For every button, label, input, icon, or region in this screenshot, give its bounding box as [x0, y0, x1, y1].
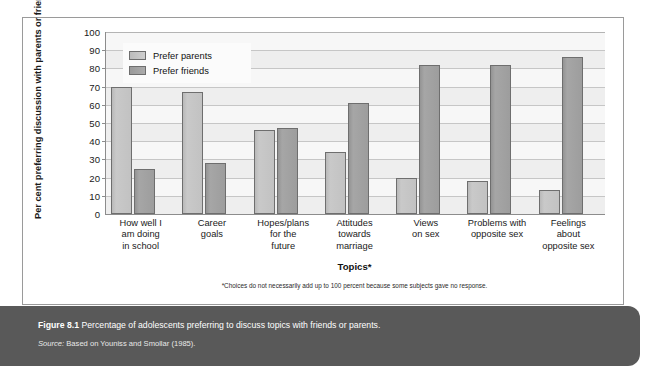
y-tick-mark: [102, 141, 106, 142]
legend-label-parents: Prefer parents: [153, 51, 212, 61]
bar-group: [320, 32, 391, 214]
x-axis-label-line: about: [525, 229, 612, 240]
x-axis-label-line: Feelings: [525, 218, 612, 229]
y-tick-mark: [102, 105, 106, 106]
bar-friends: [205, 163, 226, 214]
bar-parents: [539, 190, 560, 214]
y-tick-label: 100: [84, 27, 100, 38]
figure-caption-text: Percentage of adolescents preferring to …: [81, 320, 380, 330]
y-tick-label: 10: [89, 190, 100, 201]
caption-bar: Figure 8.1 Percentage of adolescents pre…: [0, 306, 640, 366]
source-text: Based on Youniss and Smollar (1985).: [66, 339, 195, 348]
y-tick-label: 40: [89, 136, 100, 147]
figure-frame: Per cent preferring discussion with pare…: [22, 17, 624, 305]
y-axis-title: Per cent preferring discussion with pare…: [33, 0, 45, 252]
x-axis-label: Feelingsaboutopposite sex: [525, 218, 612, 252]
bar-parents: [396, 178, 417, 214]
chart-footnote: *Choices do not necessarily add up to 10…: [105, 282, 604, 289]
bar-parents: [467, 181, 488, 214]
x-axis-label-line: marriage: [311, 241, 398, 252]
x-axis-category-labels: How well Iam doingin schoolCareergoalsHo…: [105, 218, 604, 258]
caption-inner: Figure 8.1 Percentage of adolescents pre…: [38, 319, 616, 349]
bar-group: [462, 32, 533, 214]
legend-swatch-icon-parents: [129, 51, 146, 60]
y-tick-mark: [102, 68, 106, 69]
y-tick-label: 50: [89, 118, 100, 129]
bar-chart: Per cent preferring discussion with pare…: [23, 18, 623, 304]
y-tick-mark: [102, 50, 106, 51]
y-tick-label: 30: [89, 154, 100, 165]
y-tick-mark: [102, 123, 106, 124]
bar-friends: [348, 103, 369, 214]
bar-friends: [134, 169, 155, 215]
y-tick-label: 60: [89, 99, 100, 110]
bar-parents: [182, 92, 203, 214]
bar-friends: [562, 57, 583, 214]
x-axis-label-line: opposite sex: [525, 241, 612, 252]
y-tick-mark: [102, 159, 106, 160]
x-axis-label-line: in school: [97, 241, 184, 252]
bar-group: [534, 32, 605, 214]
y-tick-label: 70: [89, 81, 100, 92]
bar-group: [391, 32, 462, 214]
chart-legend: Prefer parents Prefer friends: [123, 43, 251, 83]
legend-item-prefer-friends: Prefer friends: [129, 63, 245, 78]
legend-item-prefer-parents: Prefer parents: [129, 48, 245, 63]
figure-caption: Figure 8.1 Percentage of adolescents pre…: [38, 319, 616, 331]
legend-label-friends: Prefer friends: [153, 66, 209, 76]
y-tick-label: 90: [89, 45, 100, 56]
bar-parents: [325, 152, 346, 214]
bar-parents: [111, 87, 132, 214]
x-axis-title: Topics*: [105, 261, 604, 272]
figure-source: Source: Based on Youniss and Smollar (19…: [38, 338, 616, 349]
y-tick-label: 20: [89, 172, 100, 183]
figure-number: Figure 8.1: [38, 320, 79, 330]
y-tick-mark: [102, 196, 106, 197]
y-tick-label: 80: [89, 63, 100, 74]
y-tick-mark: [102, 87, 106, 88]
bar-parents: [254, 130, 275, 214]
bar-group: [249, 32, 320, 214]
source-label: Source:: [38, 339, 64, 348]
bar-friends: [490, 65, 511, 214]
bar-friends: [277, 128, 298, 214]
bar-friends: [419, 65, 440, 214]
y-tick-mark: [102, 178, 106, 179]
legend-swatch-icon-friends: [129, 66, 146, 75]
